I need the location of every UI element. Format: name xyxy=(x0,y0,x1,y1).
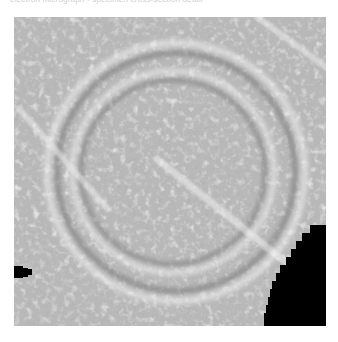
page-root: electron micrograph - specimen cross-sec… xyxy=(0,0,338,342)
caption-text: electron micrograph - specimen cross-sec… xyxy=(10,0,203,5)
micrograph-image xyxy=(14,17,326,326)
caption-strip: electron micrograph - specimen cross-sec… xyxy=(0,0,338,10)
micrograph-canvas xyxy=(14,17,326,326)
